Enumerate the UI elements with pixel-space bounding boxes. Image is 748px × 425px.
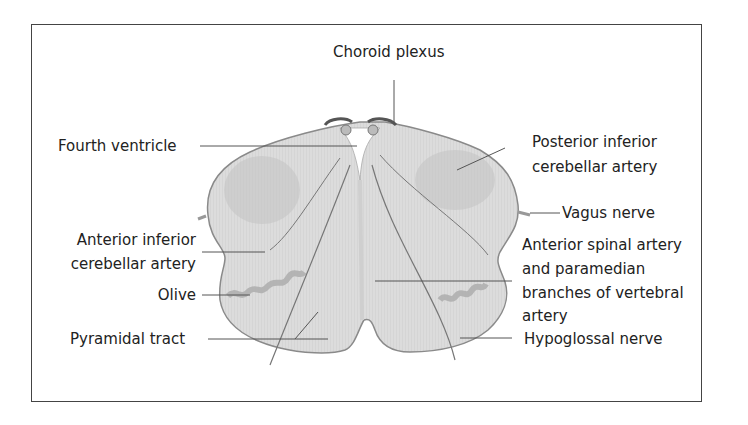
label-asa-line3: branches of vertebral [522, 283, 684, 303]
label-asa-line2: and paramedian [522, 259, 645, 279]
label-pica-line2: cerebellar artery [532, 157, 657, 177]
label-aica-line1: Anterior inferior [62, 230, 196, 250]
label-vagus-nerve: Vagus nerve [562, 203, 655, 223]
label-fourth-ventricle: Fourth ventricle [58, 136, 177, 156]
label-choroid-plexus: Choroid plexus [333, 42, 444, 62]
label-asa-line4: artery [522, 306, 568, 326]
label-aica-line2: cerebellar artery [58, 254, 196, 274]
label-hypoglossal-nerve: Hypoglossal nerve [524, 329, 663, 349]
label-pica-line1: Posterior inferior [532, 132, 657, 152]
label-asa-line1: Anterior spinal artery [522, 235, 682, 255]
label-olive: Olive [100, 285, 196, 305]
label-pyramidal-tract: Pyramidal tract [70, 329, 185, 349]
